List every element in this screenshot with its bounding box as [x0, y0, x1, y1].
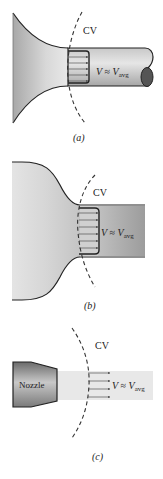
pipe-end-cap	[141, 68, 153, 87]
cv-label: CV	[83, 25, 98, 36]
caption-b: (b)	[84, 300, 96, 312]
nozzle-label: Nozzle	[19, 380, 44, 390]
caption-c: (c)	[92, 451, 104, 463]
caption-a: (a)	[73, 132, 85, 144]
cv-label: CV	[93, 187, 108, 198]
cv-label: CV	[95, 340, 110, 351]
figure-b: CV V ≈ Vavg (b)	[12, 162, 145, 312]
figure-a: CV V ≈ Vavg (a)	[13, 12, 153, 144]
figure-c: Nozzle CV V ≈ Vavg (c)	[13, 328, 153, 463]
bell-inlet-shape	[13, 13, 68, 123]
control-volume-diagram: CV V ≈ Vavg (a) CV V ≈ Vavg (b)	[0, 0, 163, 479]
contraction-shape	[12, 162, 80, 300]
